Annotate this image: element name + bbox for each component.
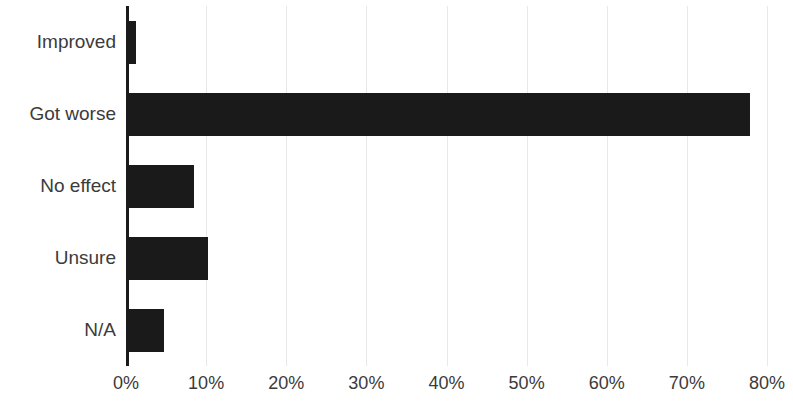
x-tick-label: 10%	[188, 372, 224, 394]
x-tick-label: 50%	[509, 372, 545, 394]
x-tick-label: 70%	[669, 372, 705, 394]
x-tick-label: 30%	[348, 372, 384, 394]
category-label: Unsure	[0, 247, 116, 269]
x-tick-label: 80%	[749, 372, 785, 394]
category-axis-labels: ImprovedGot worseNo effectUnsureN/A	[0, 6, 116, 366]
bar	[126, 93, 750, 136]
x-axis-tick-labels: 0%10%20%30%40%50%60%70%80%	[0, 372, 793, 402]
bar	[126, 309, 164, 352]
x-tick-label: 60%	[589, 372, 625, 394]
category-label: Got worse	[0, 103, 116, 125]
category-label: Improved	[0, 31, 116, 53]
bar-series	[126, 6, 767, 366]
y-axis-line	[126, 6, 129, 366]
bar-chart: ImprovedGot worseNo effectUnsureN/A 0%10…	[0, 0, 793, 407]
plot-area	[126, 6, 767, 366]
gridline	[767, 6, 768, 366]
x-tick-label: 0%	[113, 372, 139, 394]
bar	[126, 237, 208, 280]
x-tick-label: 40%	[428, 372, 464, 394]
bar	[126, 165, 194, 208]
x-tick-label: 20%	[268, 372, 304, 394]
category-label: N/A	[0, 319, 116, 341]
category-label: No effect	[0, 175, 116, 197]
